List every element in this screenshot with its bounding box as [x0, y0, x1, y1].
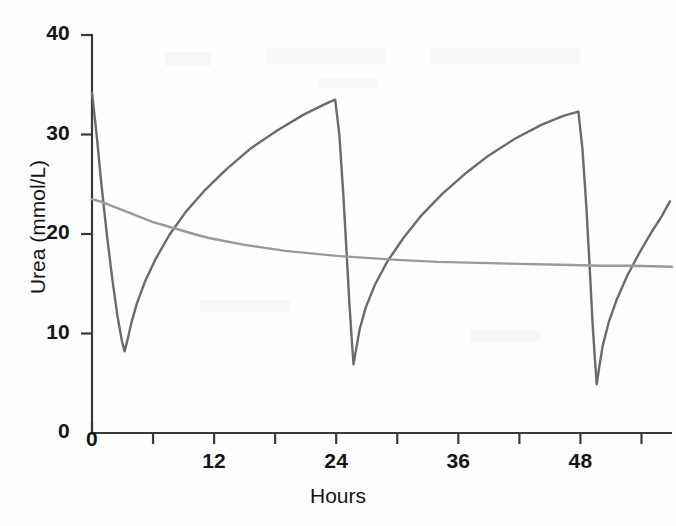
series-line-intermittent-haemodialysis — [92, 93, 670, 385]
y-tick-label: 40 — [0, 21, 70, 45]
x-tick-label: 0 — [57, 427, 127, 451]
x-tick-label: 36 — [423, 449, 493, 473]
data-series — [92, 93, 672, 385]
y-axis-title: Urea (mmol/L) — [26, 127, 50, 327]
axis-ticks — [81, 35, 641, 444]
axis-lines — [92, 34, 672, 433]
x-tick-label: 24 — [301, 449, 371, 473]
x-tick-label: 12 — [179, 449, 249, 473]
series-line-continuous-renal-replacement — [92, 199, 672, 267]
x-axis-title: Hours — [0, 484, 676, 508]
x-tick-label: 48 — [545, 449, 615, 473]
urea-concentration-chart: 010203040012243648 Urea (mmol/L) Hours — [0, 0, 676, 526]
